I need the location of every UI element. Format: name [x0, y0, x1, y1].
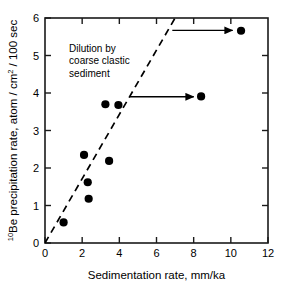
y-tick-label: 1 [33, 200, 39, 212]
data-point [197, 92, 205, 100]
chart-figure: 0246810120123456Dilution bycoarse clasti… [0, 0, 286, 285]
x-tick-label: 2 [79, 247, 85, 259]
x-tick-label: 4 [116, 247, 122, 259]
x-tick-label: 10 [225, 247, 237, 259]
y-tick-label: 2 [33, 162, 39, 174]
x-tick-label: 12 [262, 247, 274, 259]
data-point [114, 101, 122, 109]
dilution-note: Dilution bycoarse clasticsediment [69, 43, 130, 79]
annotation-line: Dilution by [69, 43, 116, 54]
y-tick-label: 0 [33, 237, 39, 249]
y-tick-label: 4 [33, 87, 39, 99]
data-point [84, 178, 92, 186]
data-point [101, 100, 109, 108]
data-point [59, 218, 67, 226]
y-tick-label: 3 [33, 125, 39, 137]
y-tick-label: 6 [33, 12, 39, 24]
annotation-line: sediment [69, 68, 110, 79]
x-tick-label: 6 [153, 247, 159, 259]
x-axis-title: Sedimentation rate, mm/ka [88, 269, 226, 281]
y-axis-title: 10Be precipitation rate, atom / cm2 / 10… [6, 19, 19, 241]
scatter-plot: 0246810120123456Dilution bycoarse clasti… [0, 0, 286, 285]
data-point [237, 27, 245, 35]
data-point [105, 157, 113, 165]
x-tick-label: 8 [191, 247, 197, 259]
annotation-line: coarse clastic [69, 55, 130, 66]
data-point [80, 151, 88, 159]
data-point [85, 195, 93, 203]
y-tick-label: 5 [33, 50, 39, 62]
x-tick-label: 0 [42, 247, 48, 259]
